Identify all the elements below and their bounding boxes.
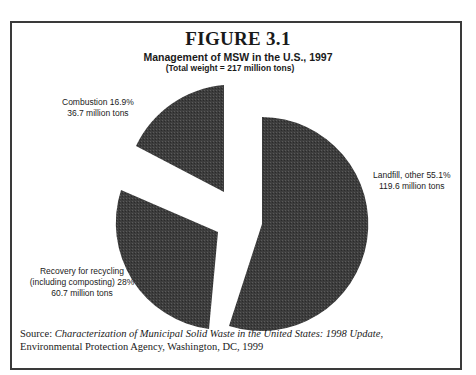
source-suffix: , <box>380 328 383 339</box>
label-combustion: Combustion 16.9% 36.7 million tons <box>62 97 134 119</box>
label-recycling-name: Recovery for recycling <box>12 266 152 277</box>
source-line-1: Source: Characterization of Municipal So… <box>20 327 383 340</box>
source-title: Characterization of Municipal Solid Wast… <box>55 328 381 339</box>
label-recycling-pct: (including composting) 28% <box>12 277 152 288</box>
label-landfill: Landfill, other 55.1% 119.6 million tons <box>373 170 451 192</box>
source-line-2: Environmental Protection Agency, Washing… <box>20 340 383 353</box>
label-landfill-pct: Landfill, other 55.1% <box>373 170 451 181</box>
source-prefix: Source: <box>20 328 55 339</box>
slice-landfill <box>229 117 368 331</box>
label-combustion-tons: 36.7 million tons <box>62 108 134 119</box>
label-combustion-pct: Combustion 16.9% <box>62 97 134 108</box>
label-landfill-tons: 119.6 million tons <box>373 181 451 192</box>
slice-combustion <box>136 85 224 192</box>
source-citation: Source: Characterization of Municipal So… <box>20 327 383 353</box>
label-recycling-tons: 60.7 million tons <box>12 288 152 299</box>
slice-recycling <box>116 190 218 329</box>
label-recycling: Recovery for recycling (including compos… <box>12 266 152 299</box>
